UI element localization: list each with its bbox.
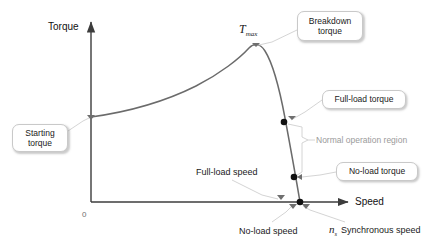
marker-no-load-torque — [291, 174, 298, 181]
torque-speed-curve — [91, 45, 300, 202]
synchronous-speed-text: Synchronous speed — [341, 225, 421, 236]
pointer-starting-torque-icon — [87, 115, 95, 120]
tmax-subscript: max — [246, 30, 258, 38]
leader-full-load-speed — [232, 180, 278, 199]
marker-synchronous-speed — [297, 199, 304, 206]
tmax-symbol: T — [239, 22, 246, 36]
pointer-breakdown-torque-icon — [252, 43, 260, 47]
callout-breakdown-torque-line2: torque — [309, 26, 352, 37]
ns-subscript: s — [335, 230, 338, 237]
origin-label: 0 — [82, 209, 86, 220]
marker-full-load-torque — [281, 119, 288, 126]
no-load-speed-label: No-load speed — [239, 226, 298, 237]
callout-no-load-torque[interactable]: No-load torque — [336, 162, 418, 181]
leader-full-load-torque — [291, 100, 322, 120]
ns-symbol-group: ns — [329, 223, 337, 237]
pointer-no-load-speed-icon — [289, 204, 297, 209]
pointer-no-load-torque-icon — [297, 174, 302, 180]
callout-full-load-torque[interactable]: Full-load torque — [322, 90, 406, 109]
leader-synchronous-speed — [303, 206, 345, 222]
callout-starting-torque-line1: Starting — [25, 128, 54, 139]
leader-no-load-torque — [302, 172, 336, 177]
callout-breakdown-torque[interactable]: Breakdown torque — [297, 11, 363, 41]
tmax-label: Tmax — [239, 22, 257, 38]
callout-full-load-torque-line1: Full-load torque — [334, 94, 393, 105]
callout-starting-torque[interactable]: Starting torque — [12, 124, 68, 152]
synchronous-speed-label: ns Synchronous speed — [329, 223, 421, 237]
leader-breakdown-torque — [259, 30, 297, 45]
pointer-full-load-torque-icon — [288, 116, 296, 120]
diagram-canvas — [0, 0, 431, 248]
callout-no-load-torque-line1: No-load torque — [349, 166, 405, 177]
leader-no-load-speed — [272, 206, 292, 222]
torque-speed-diagram: Torque Speed 0 Tmax Normal operation reg… — [0, 0, 431, 248]
leader-starting-torque — [68, 118, 89, 131]
normal-operation-bracket — [288, 124, 308, 177]
pointer-synchronous-speed-icon — [302, 204, 310, 209]
x-axis-label: Speed — [355, 196, 384, 207]
pointer-full-load-speed-icon — [277, 195, 285, 200]
normal-operation-region-label: Normal operation region — [316, 135, 407, 146]
callout-starting-torque-line2: torque — [25, 138, 54, 149]
full-load-speed-label: Full-load speed — [196, 167, 258, 178]
y-axis-label: Torque — [48, 21, 79, 32]
callout-breakdown-torque-line1: Breakdown — [309, 16, 352, 27]
